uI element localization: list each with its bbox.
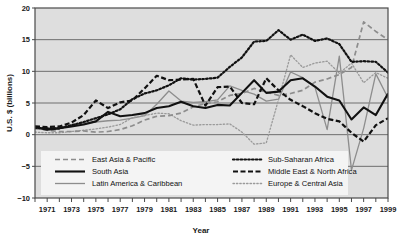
y-tick-label: −5: [21, 162, 30, 171]
line-chart: −10−505101520 19711973197519771979198119…: [0, 0, 405, 238]
x-tick-label: 1993: [307, 205, 324, 214]
legend-item-label: Europe & Central Asia: [268, 179, 343, 188]
chart-container: −10−505101520 19711973197519771979198119…: [0, 0, 405, 238]
legend-item-label: South Asia: [92, 167, 129, 176]
y-tick-label: 20: [22, 4, 30, 13]
x-tick-label: 1983: [185, 205, 202, 214]
x-tick-labels: 1971197319751977197919811983198519871989…: [39, 205, 397, 214]
x-axis-title: Year: [193, 226, 210, 235]
legend-item-label: East Asia & Pacific: [92, 155, 156, 164]
legend-item-label: Middle East & North Africa: [268, 167, 357, 176]
legend-item-label: Sub-Saharan Africa: [268, 155, 335, 164]
y-tick-label: 15: [22, 35, 30, 44]
x-tick-label: 1971: [39, 205, 56, 214]
x-tick-label: 1985: [209, 205, 226, 214]
x-tick-label: 1979: [136, 205, 153, 214]
x-tick-label: 1977: [112, 205, 129, 214]
x-tick-label: 1989: [258, 205, 275, 214]
x-tick-label: 1987: [234, 205, 251, 214]
y-tick-label: 0: [26, 130, 30, 139]
x-tick-label: 1991: [282, 205, 299, 214]
x-tick-label: 1981: [161, 205, 178, 214]
y-tick-label: 10: [22, 67, 30, 76]
y-axis-title: U.S. $ (billions): [5, 74, 14, 132]
x-tick-label: 1973: [63, 205, 80, 214]
x-tick-label: 1997: [355, 205, 372, 214]
x-tick-label: 1999: [380, 205, 397, 214]
legend-item-label: Latin America & Caribbean: [92, 179, 182, 188]
legend: East Asia & PacificSouth AsiaLatin Ameri…: [41, 151, 357, 195]
x-tick-label: 1995: [331, 205, 348, 214]
x-tick-label: 1975: [88, 205, 105, 214]
y-tick-label: −10: [17, 194, 30, 203]
y-tick-label: 5: [26, 99, 30, 108]
